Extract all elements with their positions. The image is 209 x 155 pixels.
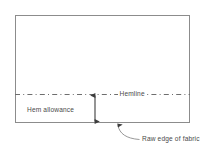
hem-allowance-label: Hem allowance	[27, 107, 74, 114]
hemline-label: Hemline	[118, 91, 146, 98]
raw-edge-leader-line	[118, 126, 140, 140]
hem-diagram-canvas: Hemline Hem allowance Raw edge of fabric	[0, 0, 209, 155]
hem-diagram-svg	[0, 0, 209, 155]
raw-edge-of-fabric-label: Raw edge of fabric	[142, 136, 200, 143]
